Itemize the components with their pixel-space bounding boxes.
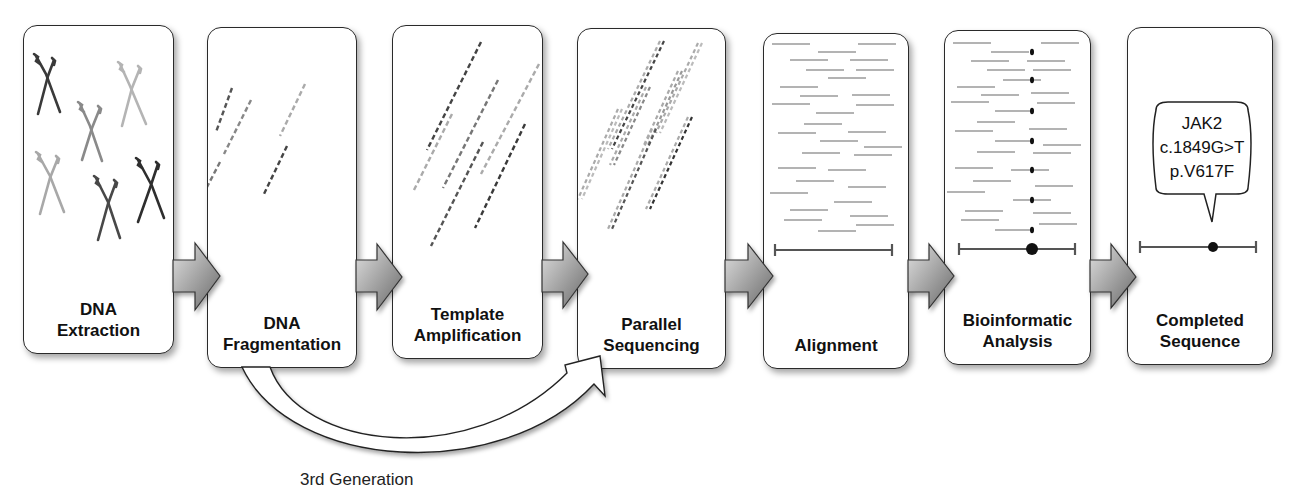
step-label: Template Amplification xyxy=(393,304,542,346)
dna-fragments-icon xyxy=(208,28,358,268)
ngs-workflow-diagram: DNA Extraction DNA Fragmentation xyxy=(0,0,1297,502)
step-label: DNA Extraction xyxy=(24,299,173,341)
variant-calling-icon xyxy=(945,31,1092,271)
reference-line xyxy=(959,243,1075,255)
step-completed-sequence: JAK2 c.1849G>T p.V617F Completed Sequenc… xyxy=(1127,27,1273,365)
step-dna-extraction: DNA Extraction xyxy=(23,25,174,354)
variant-dot xyxy=(1026,243,1038,255)
step-bioinformatic-analysis: Bioinformatic Analysis xyxy=(944,30,1091,365)
reference-line xyxy=(1140,241,1256,253)
variant-gene: JAK2 xyxy=(1182,114,1223,133)
reference-line xyxy=(775,244,892,256)
step-template-amplification: Template Amplification xyxy=(392,25,543,359)
step-alignment: Alignment xyxy=(763,33,909,369)
step-label: Completed Sequence xyxy=(1128,310,1272,352)
step-label: DNA Fragmentation xyxy=(208,313,356,355)
third-generation-label: 3rd Generation xyxy=(300,470,413,490)
step-dna-fragmentation: DNA Fragmentation xyxy=(207,27,357,368)
reference-variant-icon: JAK2 c.1849G>T p.V617F xyxy=(1128,28,1274,268)
aligned-reads-icon xyxy=(764,34,910,274)
variant-dot xyxy=(1208,242,1218,252)
chromosomes-icon xyxy=(24,26,175,266)
step-label: Parallel Sequencing xyxy=(578,314,725,356)
step-label: Bioinformatic Analysis xyxy=(945,310,1090,352)
variant-cdna: c.1849G>T xyxy=(1160,138,1245,157)
step-parallel-sequencing: Parallel Sequencing xyxy=(577,28,726,369)
sequencing-reads-icon xyxy=(578,29,727,269)
variant-protein: p.V617F xyxy=(1170,162,1234,181)
amplified-fragments-icon xyxy=(393,26,544,266)
bypass-arrow-icon xyxy=(242,356,605,452)
step-label: Alignment xyxy=(764,335,908,356)
